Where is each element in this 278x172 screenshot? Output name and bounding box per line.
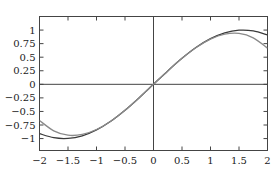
y-tick-label: −0.5 bbox=[11, 106, 35, 117]
y-tick-label: 0 bbox=[29, 79, 35, 90]
x-tick-label: −1 bbox=[89, 155, 104, 166]
y-tick-label: 1 bbox=[29, 25, 35, 36]
y-tick-label: −0.75 bbox=[5, 120, 36, 131]
x-tick-label: −1.5 bbox=[56, 155, 80, 166]
x-tick-label: 0.5 bbox=[174, 155, 190, 166]
x-tick-label: −2 bbox=[32, 155, 47, 166]
y-tick-label: 0.5 bbox=[20, 52, 36, 63]
y-tick-label: 0.75 bbox=[13, 38, 35, 49]
x-tick-labels: −2−1.5−1−0.500.511.52 bbox=[32, 155, 271, 166]
x-tick-label: −0.5 bbox=[113, 155, 137, 166]
y-tick-label: 0.25 bbox=[13, 65, 35, 76]
y-tick-labels: 10.750.50.250−0.25−0.5−0.75−1 bbox=[5, 25, 36, 145]
y-tick-label: −0.25 bbox=[5, 92, 36, 103]
y-tick-label: −1 bbox=[21, 133, 36, 144]
x-tick-label: 2 bbox=[264, 155, 270, 166]
x-tick-label: 0 bbox=[150, 155, 156, 166]
x-tick-label: 1 bbox=[207, 155, 213, 166]
x-tick-label: 1.5 bbox=[231, 155, 247, 166]
line-chart: −2−1.5−1−0.500.511.52 10.750.50.250−0.25… bbox=[0, 0, 278, 172]
